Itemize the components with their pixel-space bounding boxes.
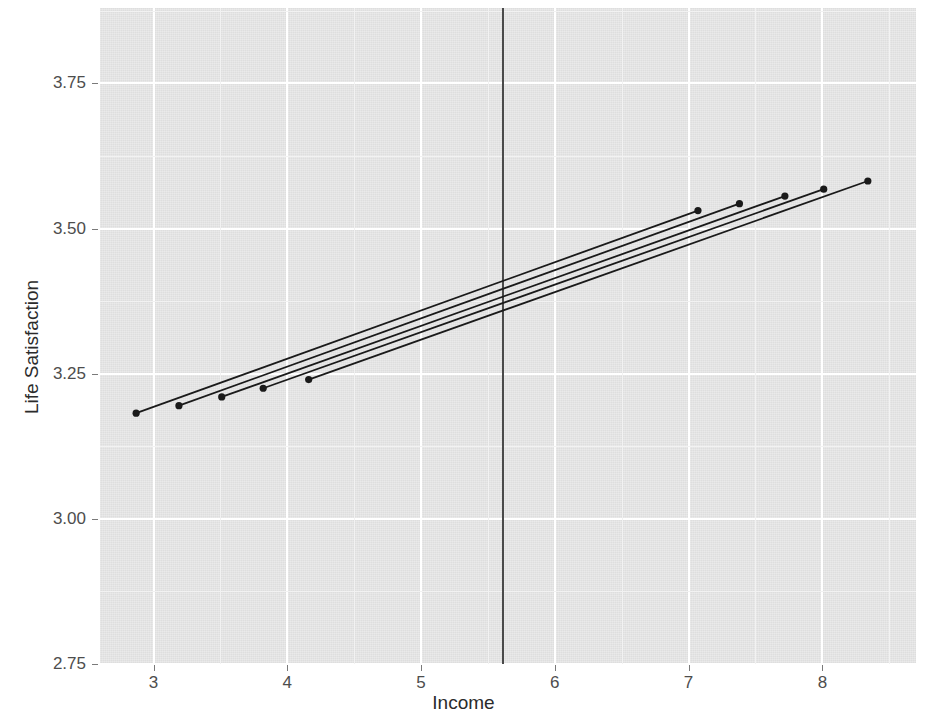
x-tick-label: 6 (535, 673, 575, 693)
y-axis-title: Life Satisfaction (21, 187, 43, 507)
chart-root: 2.753.003.253.503.75 345678 Income Life … (0, 0, 927, 726)
trend-line (136, 211, 698, 414)
series-line-5 (305, 177, 871, 383)
series-line-1 (133, 207, 702, 417)
x-tick-mark (555, 665, 556, 671)
trend-line (222, 196, 785, 397)
x-tick-mark (822, 665, 823, 671)
x-tick-mark (154, 665, 155, 671)
trend-line (179, 204, 739, 406)
trend-line (309, 181, 868, 380)
data-point (736, 200, 743, 207)
x-tick-mark (689, 665, 690, 671)
x-tick-mark (287, 665, 288, 671)
data-point (694, 207, 701, 214)
y-tick-label: 3.75 (20, 73, 86, 93)
x-tick-label: 5 (401, 673, 441, 693)
series-layer (100, 8, 916, 664)
x-tick-mark (421, 665, 422, 671)
data-point (175, 402, 182, 409)
series-line-2 (175, 200, 743, 409)
data-point (218, 393, 225, 400)
y-tick-mark (92, 229, 98, 230)
y-tick-mark (92, 519, 98, 520)
x-tick-label: 8 (802, 673, 842, 693)
x-tick-label: 4 (267, 673, 307, 693)
x-tick-label: 7 (669, 673, 709, 693)
data-point (781, 192, 788, 199)
data-point (864, 177, 871, 184)
trend-line (263, 189, 823, 388)
data-point (305, 376, 312, 383)
y-tick-mark (92, 83, 98, 84)
data-point (260, 385, 267, 392)
data-point (133, 410, 140, 417)
series-line-4 (260, 186, 828, 392)
plot-panel (100, 8, 916, 664)
y-tick-mark (92, 664, 98, 665)
x-tick-label: 3 (134, 673, 174, 693)
y-tick-label: 3.00 (20, 509, 86, 529)
series-line-3 (218, 192, 788, 400)
x-axis-title: Income (0, 692, 927, 714)
y-tick-mark (92, 374, 98, 375)
y-tick-label: 2.75 (20, 654, 86, 674)
data-point (820, 186, 827, 193)
